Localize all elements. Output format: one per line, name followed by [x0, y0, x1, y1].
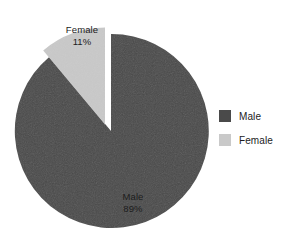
legend-label-male: Male: [239, 111, 261, 122]
legend-item-female[interactable]: Female: [218, 128, 291, 152]
pie-svg: [0, 0, 215, 246]
legend-swatch-male-icon: [218, 109, 232, 123]
legend-label-female: Female: [239, 135, 273, 146]
pie-plot-area: Male 89% Female 11%: [0, 0, 215, 246]
legend-swatch-female-icon: [218, 133, 232, 147]
chart-legend: Male Female: [218, 104, 291, 152]
pie-chart: Male 89% Female 11% Male Female: [0, 0, 291, 246]
pie-slice-male[interactable]: [15, 34, 209, 228]
legend-item-male[interactable]: Male: [218, 104, 291, 128]
